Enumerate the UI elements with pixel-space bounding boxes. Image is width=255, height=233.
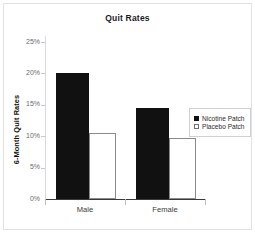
legend-item-placebo-patch: Placebo Patch: [194, 123, 247, 130]
y-tick-label-5: 5%: [0, 163, 40, 170]
legend-swatch-open-square-icon: [194, 124, 199, 129]
y-axis-line: [45, 36, 46, 200]
chart-legend: Nicotine Patch Placebo Patch: [189, 108, 251, 137]
legend-swatch-filled-square-icon: [194, 116, 199, 121]
bar-female-nicotine-patch: [136, 108, 169, 199]
chart-title: Quit Rates: [0, 13, 255, 23]
x-axis-label-female: Female: [125, 205, 205, 214]
bar-male-nicotine-patch: [56, 73, 89, 199]
legend-label-nicotine-patch: Nicotine Patch: [202, 115, 245, 122]
y-tick-label-15: 15%: [0, 100, 40, 107]
bar-male-placebo-patch: [89, 133, 116, 199]
y-tick-label-20: 20%: [0, 69, 40, 76]
y-tick-label-25: 25%: [0, 38, 40, 45]
bar-female-placebo-patch: [169, 138, 196, 199]
y-tick-label-0: 0%: [0, 195, 40, 202]
x-axis-label-male: Male: [45, 205, 125, 214]
category-separator-right: [205, 199, 206, 205]
chart-container: Quit Rates 6-Month Quit Rates 25% 20% 15…: [0, 0, 255, 233]
legend-label-placebo-patch: Placebo Patch: [202, 123, 245, 130]
y-tick-label-10: 10%: [0, 132, 40, 139]
legend-item-nicotine-patch: Nicotine Patch: [194, 115, 247, 122]
